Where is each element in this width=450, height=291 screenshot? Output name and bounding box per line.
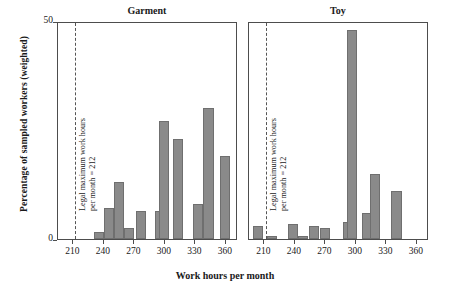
- bar: [114, 182, 124, 239]
- x-tick-label: 360: [401, 246, 431, 256]
- x-tick-mark: [103, 240, 104, 244]
- x-tick-mark: [355, 240, 356, 244]
- figure-histogram-work-hours: Percentage of sampled workers (weighted)…: [0, 0, 450, 291]
- x-tick-label: 360: [210, 246, 240, 256]
- x-tick-mark: [194, 240, 195, 244]
- bar: [391, 191, 401, 239]
- x-tick-mark: [385, 240, 386, 244]
- bar: [267, 236, 277, 239]
- x-tick-mark: [225, 240, 226, 244]
- x-tick-label: 330: [370, 246, 400, 256]
- x-tick-label: 240: [88, 246, 118, 256]
- bar: [288, 224, 298, 239]
- bar: [136, 211, 146, 239]
- x-tick-label: 270: [118, 246, 148, 256]
- bar: [298, 236, 308, 239]
- legal-max-annotation-line2: per month = 212: [88, 118, 98, 211]
- x-tick-label: 210: [57, 246, 87, 256]
- panel-toy: Legal maximum work hoursper month = 212: [248, 22, 428, 240]
- y-tick-mark-0: [53, 240, 57, 241]
- x-tick-label: 300: [340, 246, 370, 256]
- bar: [370, 174, 380, 239]
- bar: [94, 232, 104, 239]
- x-tick-label: 210: [248, 246, 278, 256]
- bar: [220, 156, 230, 239]
- bar: [253, 226, 263, 239]
- y-axis-label: Percentage of sampled workers (weighted): [19, 4, 29, 244]
- legal-max-annotation-line1: Legal maximum work hours: [78, 118, 88, 211]
- legal-max-annotation: Legal maximum work hoursper month = 212: [269, 118, 288, 211]
- x-axis-label: Work hours per month: [0, 270, 450, 281]
- bar: [104, 208, 114, 239]
- x-tick-mark: [294, 240, 295, 244]
- bar: [159, 121, 169, 239]
- panel-title-toy: Toy: [248, 5, 428, 16]
- bar: [347, 30, 357, 239]
- legal-max-annotation-line1: Legal maximum work hours: [269, 118, 279, 211]
- panel-garment: Legal maximum work hoursper month = 212: [57, 22, 237, 240]
- y-tick-label-0: 0: [27, 233, 53, 243]
- x-tick-mark: [133, 240, 134, 244]
- bar: [124, 228, 134, 239]
- y-tick-label-50: 50: [27, 15, 53, 25]
- bar: [173, 139, 183, 239]
- x-tick-mark: [164, 240, 165, 244]
- panel-title-garment: Garment: [57, 5, 237, 16]
- x-tick-label: 270: [309, 246, 339, 256]
- x-tick-mark: [324, 240, 325, 244]
- x-tick-label: 330: [179, 246, 209, 256]
- x-tick-mark: [72, 240, 73, 244]
- legal-max-line: [75, 23, 76, 239]
- legal-max-annotation: Legal maximum work hoursper month = 212: [78, 118, 97, 211]
- bar: [203, 108, 213, 239]
- bar: [320, 228, 330, 239]
- x-tick-label: 300: [149, 246, 179, 256]
- x-tick-mark: [416, 240, 417, 244]
- bar: [193, 204, 203, 239]
- bar: [309, 226, 319, 239]
- x-tick-label: 240: [279, 246, 309, 256]
- legal-max-line: [266, 23, 267, 239]
- x-tick-mark: [263, 240, 264, 244]
- legal-max-annotation-line2: per month = 212: [279, 118, 289, 211]
